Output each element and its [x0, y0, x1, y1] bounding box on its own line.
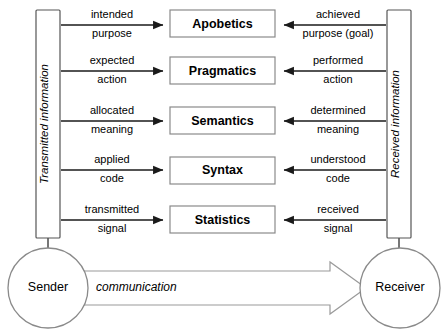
layer-box-label-apobetics: Apobetics — [192, 17, 252, 31]
flow-label-left-apobetics-line2: purpose — [92, 27, 132, 39]
right-rail-received-information: Received information — [387, 10, 411, 252]
flow-label-left-apobetics-line1: intended — [91, 8, 133, 20]
right-rail-label: Received information — [389, 70, 401, 178]
layer-row-statistics: transmitted signal Statistics received s… — [61, 203, 386, 234]
flow-label-right-semantics-line2: meaning — [317, 123, 359, 135]
flow-label-right-statistics-line2: signal — [324, 222, 353, 234]
layer-box-label-statistics: Statistics — [195, 213, 251, 227]
flow-label-left-statistics-line2: signal — [98, 222, 127, 234]
left-rail-label: Transmitted information — [38, 64, 50, 184]
layer-row-pragmatics: expected action Pragmatics performed act… — [61, 54, 386, 85]
flow-label-left-syntax-line1: applied — [94, 153, 129, 165]
layer-row-syntax: applied code Syntax understood code — [61, 153, 386, 184]
layer-row-apobetics: intended purpose Apobetics achieved purp… — [61, 8, 386, 39]
communication-arrow-label: communication — [96, 280, 177, 294]
left-rail-transmitted-information: Transmitted information — [36, 10, 60, 252]
communication-arrow: communication — [78, 262, 366, 314]
receiver-label: Receiver — [375, 280, 424, 294]
layer-box-label-syntax: Syntax — [202, 163, 243, 177]
sender-node[interactable]: Sender — [8, 248, 88, 328]
flow-label-left-semantics-line2: meaning — [91, 123, 133, 135]
flow-label-left-syntax-line2: code — [100, 172, 124, 184]
flow-label-right-syntax-line2: code — [326, 172, 350, 184]
receiver-node[interactable]: Receiver — [360, 248, 440, 328]
flow-label-right-statistics-line1: received — [317, 203, 359, 215]
diagram-canvas: Transmitted information Received informa… — [0, 0, 446, 335]
flow-label-right-apobetics-line1: achieved — [316, 8, 360, 20]
flow-label-left-statistics-line1: transmitted — [85, 203, 139, 215]
sender-label: Sender — [28, 280, 68, 294]
layer-box-label-pragmatics: Pragmatics — [189, 64, 256, 78]
flow-label-right-pragmatics-line2: action — [323, 73, 352, 85]
flow-label-left-pragmatics-line1: expected — [90, 54, 135, 66]
semiotic-ladder-diagram: Transmitted information Received informa… — [0, 0, 446, 335]
flow-label-left-semantics-line1: allocated — [90, 104, 134, 116]
flow-label-right-semantics-line1: determined — [310, 104, 365, 116]
flow-label-right-apobetics-line2: purpose (goal) — [303, 27, 374, 39]
flow-label-left-pragmatics-line2: action — [97, 73, 126, 85]
flow-label-right-syntax-line1: understood — [310, 153, 365, 165]
flow-label-right-pragmatics-line1: performed — [313, 54, 363, 66]
layer-box-label-semantics: Semantics — [191, 114, 254, 128]
layer-row-semantics: allocated meaning Semantics determined m… — [61, 104, 386, 135]
